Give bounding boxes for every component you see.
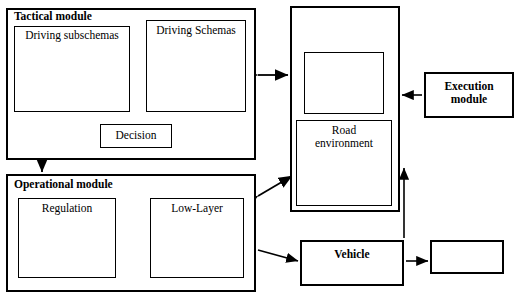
label-operational-module: Operational module	[14, 178, 194, 191]
diagram-canvas: Tactical module Driving subschemas Drivi…	[0, 0, 520, 298]
label-tactical-module: Tactical module	[14, 10, 164, 23]
connector-operational-perception	[258, 176, 292, 196]
label-execution-module: Vehicle	[300, 248, 404, 261]
label-driving-subschemas: Driving subschemas	[14, 29, 130, 42]
block-visual-field	[304, 52, 384, 114]
label-low-layer: Low-Layer	[150, 202, 244, 215]
connector-operational-execution	[258, 250, 298, 261]
block-vehicle[interactable]	[430, 240, 504, 274]
label-driving-schemas: Driving Schemas	[146, 24, 246, 37]
block-execution-module[interactable]	[300, 240, 404, 286]
label-regulation: Regulation	[18, 202, 116, 215]
label-visual-attention-allocation: Road environment	[296, 124, 392, 150]
label-road-environment: Execution module	[424, 80, 514, 106]
label-decision: Decision	[100, 129, 172, 142]
